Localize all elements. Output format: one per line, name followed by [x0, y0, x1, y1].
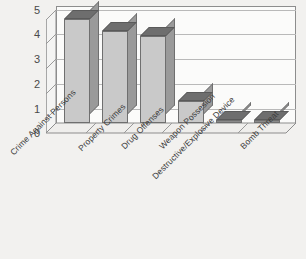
bar-front-4 [216, 120, 242, 123]
bar-crime-against-persons [64, 19, 90, 123]
y-tick-label-3: 3 [24, 54, 40, 64]
y-tick-label-4: 4 [24, 29, 40, 39]
bar-front-0 [64, 19, 90, 123]
bar-side-0 [90, 1, 99, 114]
x-axis-labels: Crime Against Persons Property Crimes Dr… [0, 138, 306, 259]
bar-destructive-explosive-device [216, 120, 242, 123]
y-tick-label-5: 5 [24, 5, 40, 15]
y-tick-label-2: 2 [24, 79, 40, 89]
plot-area [46, 6, 296, 134]
bar-chart: 5 4 3 2 1 0 [0, 0, 306, 259]
y-tick-label-1: 1 [24, 104, 40, 114]
